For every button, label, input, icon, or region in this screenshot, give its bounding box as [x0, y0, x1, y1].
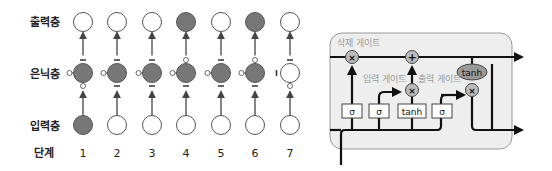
add-op: + [406, 51, 419, 65]
output-node [108, 13, 127, 32]
time-step-1: 1 [67, 13, 93, 161]
svg-text:σ: σ [349, 107, 355, 117]
gate-open-icon [184, 58, 189, 63]
step-label: 7 [287, 147, 294, 160]
figure: 출력층 은닉층 입력층 단계 1234567 삭제 게이트 × [0, 0, 552, 171]
output-node [281, 13, 300, 32]
output-node [74, 13, 93, 32]
forget-multiply-op: × [346, 51, 359, 64]
rnn-unrolled-diagram: 출력층 은닉층 입력층 단계 1234567 [30, 13, 300, 161]
hidden-node [177, 64, 196, 83]
step-label: 1 [80, 147, 87, 160]
time-step-2: 2 [101, 13, 127, 161]
output-sigma-box: σ [432, 104, 452, 118]
row-label-step: 단계 [34, 146, 54, 160]
gate-open-icon [253, 58, 258, 63]
svg-text:×: × [408, 86, 416, 96]
row-label-input: 입력층 [30, 119, 60, 133]
hidden-node [281, 64, 300, 83]
input-node [212, 116, 231, 135]
forget-gate-open-icon [239, 71, 244, 76]
input-multiply-op: × [406, 84, 419, 97]
row-label-hidden: 은닉층 [30, 67, 60, 81]
output-gate-label: 출력 게이트 [418, 73, 461, 84]
svg-text:×: × [348, 53, 356, 63]
hidden-node [246, 64, 265, 83]
tanh-oval: tanh [457, 64, 487, 80]
input-node [281, 116, 300, 135]
step-label: 6 [252, 147, 259, 160]
forget-gate-open-icon [136, 71, 141, 76]
input-sigma-box: σ [369, 104, 389, 118]
time-step-columns: 1234567 [67, 13, 300, 161]
svg-text:σ: σ [376, 107, 382, 117]
step-label: 4 [183, 147, 190, 160]
svg-text:σ: σ [439, 107, 445, 117]
input-gate-label: 입력 게이트 [363, 73, 406, 84]
forget-gate-open-icon [101, 71, 106, 76]
forget-gate-open-icon [205, 71, 210, 76]
row-label-output: 출력층 [30, 15, 60, 29]
forget-gate-open-icon [67, 71, 72, 76]
output-node [246, 13, 265, 32]
svg-text:tanh: tanh [402, 107, 422, 117]
step-label: 3 [149, 147, 156, 160]
time-step-5: 5 [205, 13, 231, 161]
forget-gate-label: 삭제 게이트 [337, 38, 380, 48]
forget-sigma-box: σ [342, 104, 362, 118]
input-node [74, 116, 93, 135]
hidden-node [74, 64, 93, 83]
forget-gate-open-icon [170, 71, 175, 76]
time-step-6: 6 [239, 13, 265, 161]
step-label: 5 [218, 147, 225, 160]
svg-text:tanh: tanh [462, 68, 482, 78]
candidate-tanh-box: tanh [398, 104, 426, 118]
step-label: 2 [114, 147, 121, 160]
time-step-3: 3 [136, 13, 162, 161]
output-multiply-op: × [466, 84, 479, 97]
lstm-cell-diagram: 삭제 게이트 × + × [330, 33, 522, 165]
hidden-node [108, 64, 127, 83]
hidden-node [212, 64, 231, 83]
output-node [177, 13, 196, 32]
svg-text:×: × [468, 86, 476, 96]
input-node [246, 116, 265, 135]
time-step-4: 4 [170, 13, 196, 161]
input-node [143, 116, 162, 135]
output-node [212, 13, 231, 32]
output-node [143, 13, 162, 32]
gate-open-icon [81, 84, 86, 89]
hidden-node [143, 64, 162, 83]
input-node [108, 116, 127, 135]
time-step-7: 7 [277, 13, 300, 161]
gate-open-icon [288, 84, 293, 89]
svg-text:+: + [407, 51, 416, 64]
input-node [177, 116, 196, 135]
lstm-cell-box [330, 33, 512, 149]
